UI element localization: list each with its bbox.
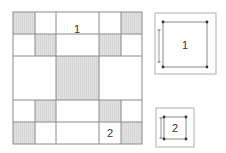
corner-dot [162, 21, 165, 24]
shaded-cell [13, 12, 35, 34]
shaded-cell [121, 122, 142, 144]
shaded-cell [99, 100, 121, 122]
corner-dot [206, 21, 209, 24]
corner-dot [206, 66, 209, 69]
cell-label: 1 [74, 23, 80, 35]
block-pattern-diagram: 12 1 2 [0, 0, 226, 153]
cell-label: 2 [107, 127, 113, 139]
corner-dot [163, 116, 166, 119]
shaded-cell [56, 56, 99, 100]
corner-dot [162, 66, 165, 69]
figure-1-template: 1 [155, 13, 216, 74]
shaded-cell [35, 100, 56, 122]
shaded-cell [35, 34, 56, 56]
figure-2-template: 2 [156, 108, 194, 147]
corner-dot [185, 116, 188, 119]
shaded-cell [121, 12, 142, 34]
corner-dot [163, 138, 166, 141]
figure-label: 1 [182, 39, 188, 51]
corner-dot [185, 138, 188, 141]
shaded-cell [13, 122, 35, 144]
shaded-cell [99, 34, 121, 56]
figure-label: 2 [172, 122, 178, 134]
